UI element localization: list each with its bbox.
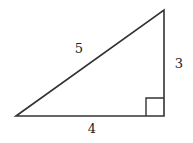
vertical-leg-label: 3 <box>175 56 183 71</box>
triangle-diagram: 5 3 4 <box>0 0 193 143</box>
right-angle-marker <box>146 98 164 116</box>
horizontal-leg-label: 4 <box>88 121 96 136</box>
hypotenuse-label: 5 <box>75 41 83 56</box>
right-triangle <box>16 10 164 116</box>
